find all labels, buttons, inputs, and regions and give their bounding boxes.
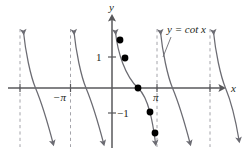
marked-point [122, 55, 129, 62]
x-axis-label: x [231, 83, 236, 94]
x-tick-label-neg-pi: −π [53, 92, 66, 103]
marked-point [152, 130, 159, 137]
cotangent-graph-figure: y x 1 −1 −π π y = cot x [0, 0, 242, 155]
y-tick-label-neg-one: −1 [117, 108, 129, 119]
x-tick-label-pi: π [153, 92, 159, 103]
marked-point [117, 37, 124, 44]
marked-point [147, 109, 154, 116]
tick-group [20, 57, 210, 113]
y-tick-label-one: 1 [96, 52, 102, 63]
axes-group [8, 18, 222, 148]
marked-point [135, 85, 142, 92]
curve-equation-label: y = cot x [167, 24, 206, 35]
label-leader-line [163, 37, 171, 57]
y-axis-label: y [109, 2, 114, 13]
